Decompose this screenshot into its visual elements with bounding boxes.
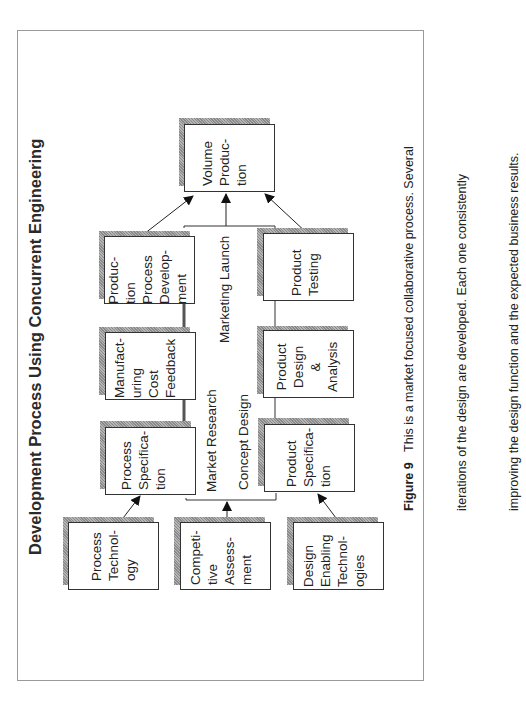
- process-specification-label: Process Specifica- tion: [118, 431, 169, 490]
- figure-caption: Figure 9 This is a market focused collab…: [366, 146, 526, 511]
- caption-line-1: Figure 9 This is a market focused collab…: [401, 146, 419, 511]
- product-specification-label: Product Specifica- tion: [283, 428, 334, 487]
- market-research-label: Market Research: [204, 389, 219, 492]
- process-technology-label: Process Technol- ogy: [88, 530, 139, 581]
- caption-text-1: This is a market focused collaborative p…: [402, 146, 416, 452]
- competitive-assessment-label: Competi- tive Assess- ment: [187, 530, 255, 585]
- design-enabling-technologies-label: Design Enabling Technol- ogies: [300, 534, 368, 587]
- concept-design-label: Concept Design: [236, 394, 251, 490]
- manufacturing-cost-feedback-label: Manufact- uring Cost Feedback: [111, 338, 179, 398]
- figure-label: Figure 9: [402, 462, 416, 511]
- product-design-analysis-label: Product Design & Analysis: [273, 342, 341, 392]
- volume-production-label: Volume Produc- tion: [199, 139, 250, 186]
- caption-line-2: iterations of the design are developed. …: [454, 146, 472, 511]
- caption-line-3: improving the design function and the ex…: [506, 146, 524, 511]
- marketing-launch-label: Marketing Launch: [217, 236, 232, 343]
- product-testing-label: Product Testing: [288, 249, 322, 296]
- production-process-development-label: Produc- tion Process Develop- ment: [105, 250, 190, 304]
